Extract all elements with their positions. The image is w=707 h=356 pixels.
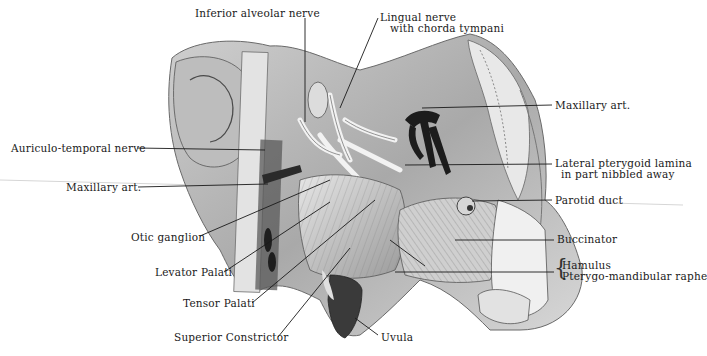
label-line-2: Pterygo-mandibular raphe <box>562 271 707 282</box>
label-auriculo-temporal-nerve: Auriculo-temporal nerve <box>11 143 146 154</box>
label-line-2: with chorda tympani <box>380 23 504 34</box>
label-buccinator: Buccinator <box>557 234 617 245</box>
label-maxillary-art-right: Maxillary art. <box>555 100 630 111</box>
label-lingual-nerve: Lingual nerve with chorda tympani <box>380 12 504 34</box>
label-uvula: Uvula <box>381 332 413 343</box>
label-tensor-palati: Tensor Palati <box>183 298 255 309</box>
parotid-duct-opening <box>457 197 475 215</box>
label-otic-ganglion: Otic ganglion <box>131 232 205 243</box>
label-hamulus-raphe: Hamulus Pterygo-mandibular raphe <box>562 260 707 282</box>
label-maxillary-art-left: Maxillary art. <box>66 182 141 193</box>
label-inferior-alveolar-nerve: Inferior alveolar nerve <box>195 8 320 19</box>
label-line-2: in part nibbled away <box>555 169 692 180</box>
label-levator-palati: Levator Palati <box>155 267 232 278</box>
condyle <box>308 82 328 118</box>
label-parotid-duct: Parotid duct <box>555 195 623 206</box>
label-lateral-pterygoid-lamina: Lateral pterygoid lamina in part nibbled… <box>555 158 692 180</box>
label-superior-constrictor: Superior Constrictor <box>174 332 289 343</box>
